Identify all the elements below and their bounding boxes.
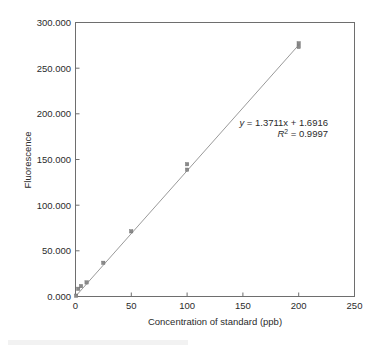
r-squared-number: = 0.9997 [288,128,328,139]
y-tick-label: 300.000 [37,17,71,28]
x-tick-label: 0 [73,300,78,311]
y-tick-label: 200.000 [37,108,71,119]
x-tick-label: 150 [235,300,251,311]
x-tick-label: 50 [126,300,137,311]
data-point [185,163,188,166]
data-point [79,284,82,287]
x-tick-label: 250 [347,300,363,311]
data-point [85,281,88,284]
fit-equation: y = 1.3711x + 1.6916 [238,117,328,128]
y-tick-label: 50.000 [42,245,71,256]
figure-container: 300.000 250.000 200.000 150.000 100.000 … [0,0,377,348]
x-axis-title: Concentration of standard (ppb) [148,316,282,327]
y-tick-label: 150.000 [37,154,71,165]
equation-body: = 1.3711x + 1.6916 [244,117,328,128]
data-point [297,45,300,48]
data-point [130,230,133,233]
y-tick-label: 0.000 [47,291,71,302]
data-point [297,42,300,45]
y-tick-label: 250.000 [37,63,71,74]
y-tick-label: 100.000 [37,200,71,211]
data-point [74,294,77,297]
data-point [185,168,188,171]
y-axis-title: Fluorescence [22,131,33,188]
x-tick-label: 200 [291,300,307,311]
calibration-curve-chart: 300.000 250.000 200.000 150.000 100.000 … [0,0,377,348]
x-tick-label: 100 [179,300,195,311]
scan-artifact [8,340,188,345]
data-point [102,261,105,264]
